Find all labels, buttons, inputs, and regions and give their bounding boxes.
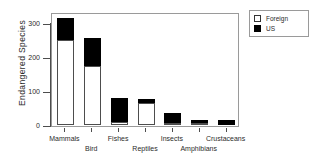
x-tick-mark (172, 128, 173, 132)
filled-square-icon (254, 25, 261, 32)
x-tick-label: Fishes (108, 135, 129, 142)
chart-figure: Endangered Species 3002001000 MammalsBir… (0, 0, 316, 164)
x-tick-mark (64, 128, 65, 132)
legend: Foreign US (249, 10, 309, 37)
bar-bird (84, 38, 101, 125)
x-tick-label: Reptiles (132, 145, 157, 152)
x-tick-label: Bird (85, 145, 97, 152)
plot-area (51, 13, 239, 127)
legend-item-us: US (254, 24, 305, 33)
bar-segment-us (57, 18, 74, 40)
x-tick-label: Mammals (49, 135, 79, 142)
x-tick-mark (118, 128, 119, 132)
bar-segment-us (191, 120, 208, 123)
bar-segment-us (84, 38, 101, 65)
y-tick-mark (43, 92, 51, 93)
bar-segment-foreign (57, 40, 74, 125)
x-tick-label: Insects (161, 135, 183, 142)
y-tick-label: 100 (14, 88, 40, 95)
legend-item-foreign: Foreign (254, 14, 305, 23)
bar-fishes (111, 98, 128, 125)
y-tick-label: 300 (14, 20, 40, 27)
bar-segment-foreign (84, 66, 101, 126)
x-tick-mark (226, 128, 227, 132)
y-tick-mark (43, 126, 51, 127)
bar-insects (164, 113, 181, 125)
open-square-icon (254, 15, 261, 22)
bar-amphibians (191, 120, 208, 125)
x-tick-label: Crustaceans (206, 135, 245, 142)
x-tick-mark (145, 128, 146, 132)
x-tick-mark (91, 128, 92, 132)
bar-reptiles (138, 98, 155, 125)
bar-segment-foreign (111, 122, 128, 125)
bar-mammals (57, 18, 74, 125)
bar-segment-foreign (138, 103, 155, 125)
bar-segment-us (138, 99, 155, 103)
legend-label-foreign: Foreign (266, 15, 288, 23)
y-tick-label: 200 (14, 54, 40, 61)
y-tick-label: 0 (14, 122, 40, 129)
bar-segment-us (164, 113, 181, 123)
y-tick-mark (43, 24, 51, 25)
x-tick-label: Amphibians (180, 145, 217, 152)
bar-segment-us (218, 120, 235, 125)
legend-label-us: US (266, 25, 275, 33)
y-tick-mark (43, 58, 51, 59)
x-tick-mark (199, 128, 200, 132)
bar-segment-us (111, 98, 128, 122)
bar-crustaceans (218, 120, 235, 125)
